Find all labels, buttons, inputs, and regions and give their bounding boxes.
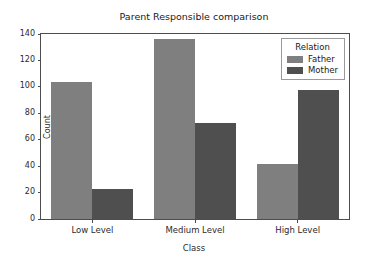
bar-high-level-mother [298,90,339,220]
y-tick-label: 0 [30,214,35,224]
legend-title: Relation [287,42,338,52]
chart-title: Parent Responsible comparison [40,11,348,22]
y-tick-label: 60 [25,134,35,144]
bar-low-level-father [51,82,92,219]
legend-swatch-mother-icon [287,67,303,74]
y-tick-label: 120 [20,55,35,65]
x-tick-label: High Level [275,225,320,235]
legend-label-father: Father [308,54,335,64]
x-tick-mark [195,219,196,223]
chart-legend: Relation Father Mother [281,38,345,80]
x-axis-label: Class [40,243,348,253]
bar-medium-level-father [154,39,195,219]
bar-low-level-mother [92,189,133,219]
x-tick-label: Medium Level [165,225,224,235]
plot-area: Count 020406080100120140 Low LevelMedium… [40,33,350,220]
bar-medium-level-mother [195,123,236,219]
bar-high-level-father [257,164,298,220]
x-tick-label: Low Level [71,225,113,235]
y-tick-label: 80 [25,108,35,118]
y-tick-label: 20 [25,187,35,197]
x-tick-mark [92,219,93,223]
legend-label-mother: Mother [308,65,338,75]
y-tick-label: 100 [20,81,35,91]
x-tick-mark [297,219,298,223]
legend-swatch-father-icon [287,56,303,63]
legend-item-father: Father [287,54,338,64]
y-tick-label: 40 [25,161,35,171]
y-tick-label: 140 [20,29,35,39]
chart-figure: Parent Responsible comparison Count 0204… [0,0,365,262]
legend-item-mother: Mother [287,65,338,75]
